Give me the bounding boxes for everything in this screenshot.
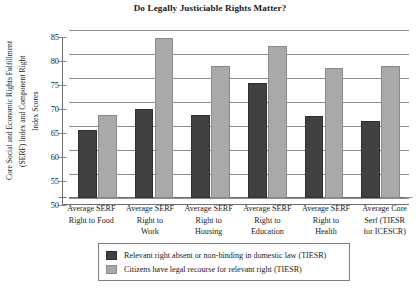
bar: [305, 116, 324, 198]
y-axis-tick-label: 85: [51, 33, 59, 42]
bar: [381, 66, 400, 198]
bar-group: [182, 30, 239, 198]
bar: [78, 130, 97, 198]
legend-item: Relevant right absent or non-binding in …: [106, 248, 349, 262]
y-axis-title-line-1: Core Social and Economic Rights Fulfillm…: [3, 16, 16, 206]
y-axis-title-line-2: (SERF) Index and Component Right: [16, 16, 29, 206]
y-axis-title-line-3: Index Scores: [29, 16, 42, 206]
bar-group: [239, 30, 296, 198]
bar: [268, 46, 287, 198]
x-axis-category-line: Right to: [121, 215, 180, 227]
bar: [155, 38, 174, 198]
legend-label: Relevant right absent or non-binding in …: [124, 251, 326, 260]
x-axis-category-labels: Average SERFRight to FoodAverage SERFRig…: [62, 203, 414, 245]
y-axis-tick-label: 70: [51, 105, 59, 114]
bar-group: [296, 30, 353, 198]
x-axis-category-line: Health: [297, 226, 356, 238]
gridline: [69, 198, 409, 199]
bars-layer: [69, 30, 409, 198]
bar: [191, 115, 210, 198]
x-axis-category-label: Average SERFRight toHealth: [297, 203, 356, 238]
x-axis-category-line: for ICESCR): [355, 226, 414, 238]
y-axis-tick-label: 80: [51, 57, 59, 66]
x-axis-category-line: Right to: [297, 215, 356, 227]
x-axis-category-label: Average SERFRight to Food: [62, 203, 121, 226]
legend-item: Citizens have legal recourse for relevan…: [106, 262, 349, 276]
bar: [98, 115, 117, 198]
x-axis-category-line: Housing: [179, 226, 238, 238]
bar: [361, 121, 380, 198]
legend-label: Citizens have legal recourse for relevan…: [124, 265, 302, 274]
x-axis-category-line: Education: [238, 226, 297, 238]
bar: [135, 109, 154, 198]
bar-group: [352, 30, 409, 198]
x-axis-category-line: Average SERF: [179, 203, 238, 215]
x-axis-category-line: Right to: [179, 215, 238, 227]
x-axis-category-line: Right to Food: [62, 215, 121, 227]
bar: [325, 68, 344, 198]
bar: [211, 66, 230, 198]
x-axis-category-line: Serf (TIESR: [355, 215, 414, 227]
bar: [248, 83, 267, 198]
plot-area: 8580757065605550: [69, 30, 409, 198]
y-axis-line: [62, 37, 63, 205]
legend-swatch: [106, 265, 117, 274]
chart-title: Do Legally Justiciable Rights Matter?: [0, 3, 420, 13]
y-axis-title: Core Social and Economic Rights Fulfillm…: [0, 16, 42, 206]
x-axis-category-line: Right to: [238, 215, 297, 227]
legend: Relevant right absent or non-binding in …: [98, 243, 350, 281]
x-axis-category-label: Average SERFRight toHousing: [179, 203, 238, 238]
x-axis-category-line: Work: [121, 226, 180, 238]
y-axis-tick-label: 75: [51, 81, 59, 90]
x-axis-category-line: Average SERF: [297, 203, 356, 215]
bar-group: [69, 30, 126, 198]
y-axis-tick-label: 65: [51, 129, 59, 138]
x-axis-category-label: Average SERFRight toEducation: [238, 203, 297, 238]
x-axis-category-label: Average SERFRight toWork: [121, 203, 180, 238]
y-axis-tick-label: 50: [51, 201, 59, 210]
x-axis-category-line: Average SERF: [62, 203, 121, 215]
x-axis-category-line: Average SERF: [238, 203, 297, 215]
bar-group: [126, 30, 183, 198]
y-axis-tick-label: 55: [51, 177, 59, 186]
x-axis-category-line: Average SERF: [121, 203, 180, 215]
x-axis-category-line: Average Core: [355, 203, 414, 215]
x-axis-category-label: Average CoreSerf (TIESRfor ICESCR): [355, 203, 414, 238]
legend-swatch: [106, 251, 117, 260]
y-axis-tick-label: 60: [51, 153, 59, 162]
bar-chart: Do Legally Justiciable Rights Matter? Co…: [0, 0, 420, 290]
